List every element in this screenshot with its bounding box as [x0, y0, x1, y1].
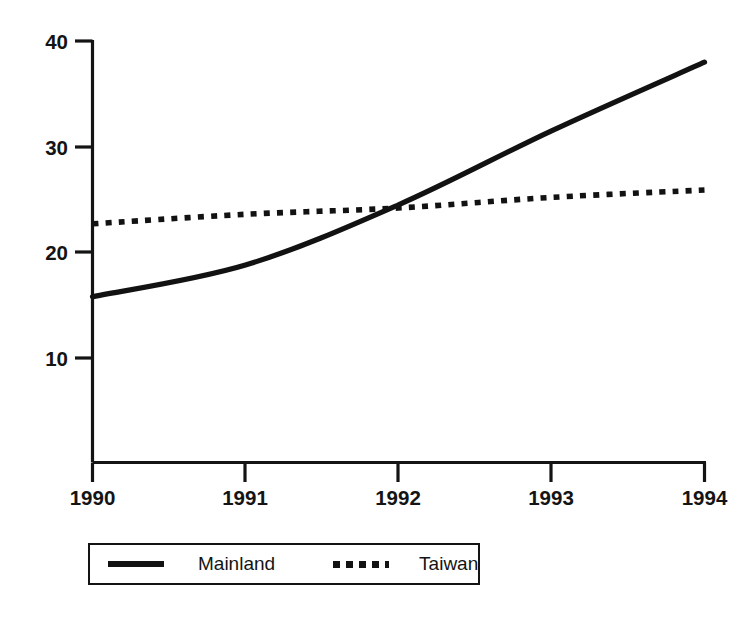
chart-canvas: 40 30 20 10 1990 1991 1992 1993 1994	[0, 0, 736, 621]
x-tick-label-1993: 1993	[528, 486, 574, 509]
x-tick-label-1994: 1994	[682, 486, 728, 509]
x-tick-label-1991: 1991	[222, 486, 268, 509]
y-tick-label-40: 40	[45, 30, 68, 53]
y-tick-label-10: 10	[45, 347, 68, 370]
line-chart: 40 30 20 10 1990 1991 1992 1993 1994 Mai…	[0, 0, 736, 621]
legend-entry-taiwan: Taiwan	[333, 545, 478, 583]
legend-label-mainland: Mainland	[198, 553, 275, 575]
x-tick-label-1992: 1992	[375, 486, 421, 509]
solid-line-swatch-icon	[108, 561, 164, 567]
legend-label-taiwan: Taiwan	[419, 553, 478, 575]
legend-entry-mainland: Mainland	[108, 545, 275, 583]
x-tick-label-1990: 1990	[70, 486, 116, 509]
series-line-mainland	[93, 62, 705, 297]
chart-legend: Mainland Taiwan	[88, 543, 480, 585]
y-tick-label-30: 30	[45, 136, 68, 159]
y-tick-label-20: 20	[45, 241, 68, 264]
dotted-line-swatch-icon	[333, 561, 389, 568]
